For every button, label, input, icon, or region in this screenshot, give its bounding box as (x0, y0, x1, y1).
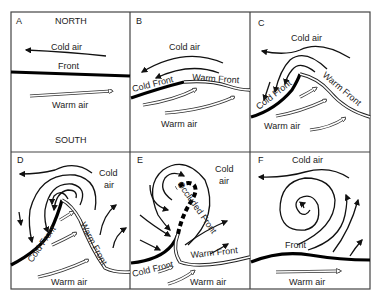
cold-air-label-2: air (219, 176, 229, 186)
cyclone-diagram: A NORTH Cold air Front Warm air SOUTH B … (0, 0, 376, 299)
front-label: Front (285, 240, 307, 250)
panel-b: B Cold air Cold Front Warm Front Warm ai… (131, 16, 250, 129)
cold-air-label: Cold air (292, 155, 323, 165)
panel-f: F Cold air Front Warm air (251, 155, 370, 287)
panel-b-letter: B (136, 16, 142, 26)
panel-c: C Cold air Cold Front Warm Front Warm ai… (251, 18, 370, 131)
cold-air-label: Cold air (51, 42, 82, 52)
panel-a: A NORTH Cold air Front Warm air SOUTH (11, 16, 130, 145)
panel-d: D Cold air Cold Front Warm Front Warm ai… (11, 155, 130, 287)
warm-air-label: Warm air (51, 277, 87, 287)
warm-air-label: Warm air (161, 119, 197, 129)
panel-a-letter: A (16, 16, 22, 26)
panel-e: E Cold air Occluded Front Cold Front War… (131, 155, 250, 287)
warm-air-label: Warm air (190, 277, 226, 287)
panel-c-letter: C (258, 18, 265, 28)
cold-air-arrow-icon (259, 170, 349, 178)
panel-e-letter: E (137, 155, 143, 165)
cold-air-arrow-icon (140, 240, 160, 250)
cold-air-arrow-icon (113, 228, 126, 248)
front-line (251, 254, 370, 262)
warm-air-arrow-icon (310, 118, 345, 130)
warm-air-arrow-icon (276, 100, 326, 116)
cold-air-arrow-icon (350, 240, 362, 256)
panel-d-letter: D (17, 155, 24, 165)
cold-air-arrow-icon (333, 200, 358, 252)
cyclone-spiral-icon (280, 178, 335, 245)
warm-front-label: Warm Front (190, 245, 238, 260)
cold-air-arrow-icon (100, 205, 116, 235)
warm-air-label: Warm air (264, 121, 300, 131)
cold-air-arrow-icon (20, 166, 92, 174)
cold-air-label: Cold air (291, 33, 322, 43)
warm-air-arrow-icon (165, 97, 234, 113)
cold-air-label-1: Cold (99, 168, 118, 178)
front-line (11, 72, 130, 76)
cold-air-label-2: air (104, 180, 114, 190)
north-label: NORTH (55, 16, 87, 26)
warm-air-label: Warm air (52, 100, 88, 110)
warm-front-label: Warm Front (192, 72, 240, 85)
panel-f-letter: F (258, 155, 264, 165)
warm-front-label: Warm Front (78, 220, 109, 267)
south-label: SOUTH (55, 135, 87, 145)
front-label: Front (58, 61, 80, 71)
cold-air-arrow-icon (19, 212, 21, 225)
warm-air-label: Warm air (289, 277, 325, 287)
cold-air-label-1: Cold (215, 164, 234, 174)
cold-air-label: Cold air (169, 42, 200, 52)
